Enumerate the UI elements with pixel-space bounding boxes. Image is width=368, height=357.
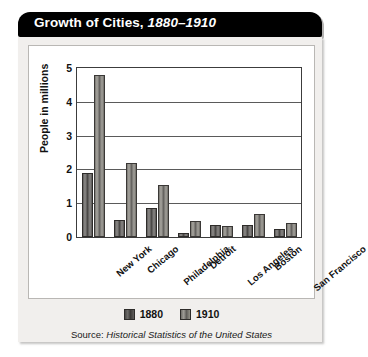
legend-swatch-1910 [180,309,191,320]
bar-chicago-1910 [126,163,137,237]
title-banner: Growth of Cities, 1880–1910 [18,12,322,37]
source-prefix: Source: [71,329,104,340]
chart-card: People in millions 012345 New YorkChicag… [28,45,315,299]
bar-series-container [77,68,301,237]
plot-area: 012345 [76,67,302,238]
chart-legend: 18801910 [29,308,314,320]
bar-group [177,68,202,237]
legend-label-1880: 1880 [140,308,163,320]
legend-label-1910: 1910 [196,308,219,320]
source-note: Source: Historical Statistics of the Uni… [29,329,314,340]
bar-detroit-1880 [178,233,189,237]
bar-group [113,68,138,237]
bar-group [241,68,266,237]
title-date-range: 1880–1910 [148,15,216,30]
y-axis-tick-label: 3 [66,130,72,142]
x-axis-label-san-francisco: San Francisco [311,243,368,293]
legend-item-1910: 1910 [180,308,219,320]
y-axis-label: People in millions [38,64,50,153]
legend-item-1880: 1880 [124,308,163,320]
chart-panel: People in millions 012345 New YorkChicag… [18,37,322,342]
bar-los-angeles-1880 [210,225,221,237]
bar-san-francisco-1910 [286,223,297,237]
y-axis-tick-label: 5 [66,62,72,74]
bar-new-york-1880 [82,173,93,237]
bar-los-angeles-1910 [222,226,233,237]
bar-group [273,68,298,237]
bar-chicago-1880 [114,220,125,237]
bar-group [209,68,234,237]
page-title: Growth of Cities, 1880–1910 [34,15,216,30]
source-title: Historical Statistics of the United Stat… [106,329,272,340]
bar-detroit-1910 [190,221,201,237]
y-axis-tick-label: 0 [66,231,72,243]
title-main-text: Growth of Cities, [34,15,144,30]
bar-new-york-1910 [94,75,105,237]
y-axis-tick-label: 1 [66,197,72,209]
bar-boston-1910 [254,214,265,237]
y-axis-tick-label: 4 [66,96,72,108]
x-axis-labels: New YorkChicagoPhiladelphiaDetroitLos An… [76,240,302,298]
bar-philadelphia-1910 [158,185,169,237]
bar-group [81,68,106,237]
bar-boston-1880 [242,225,253,237]
bar-philadelphia-1880 [146,208,157,237]
legend-swatch-1880 [124,309,135,320]
x-axis-label-new-york: New York [114,243,154,279]
bar-group [145,68,170,237]
y-axis-tick-label: 2 [66,163,72,175]
bar-san-francisco-1880 [274,229,285,237]
